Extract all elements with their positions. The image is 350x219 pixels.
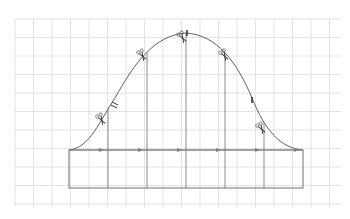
scissors-icon bbox=[218, 48, 230, 62]
scissors-icon bbox=[255, 121, 267, 135]
bell-curve-diagram bbox=[0, 0, 350, 219]
grid bbox=[15, 19, 341, 207]
double-notch-icon bbox=[111, 105, 117, 108]
scissors-icon bbox=[136, 48, 148, 62]
double-notch-icon bbox=[112, 102, 118, 105]
diagram-canvas bbox=[0, 0, 350, 219]
